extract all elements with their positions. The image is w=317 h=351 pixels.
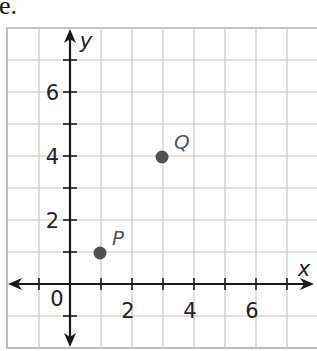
x-tick-label: 6 xyxy=(245,299,258,323)
x-axis-label: x xyxy=(297,257,311,281)
y-axis-label: y xyxy=(79,29,93,53)
data-points: PQ xyxy=(94,130,190,260)
tick-labels: xy0246246 xyxy=(46,29,311,323)
x-tick-label: 4 xyxy=(183,299,196,323)
point-q-label: Q xyxy=(174,130,190,154)
coordinate-plane: xy0246246 PQ xyxy=(0,0,317,351)
point-p-marker xyxy=(94,247,107,260)
y-tick-label: 4 xyxy=(46,145,59,169)
origin-label: 0 xyxy=(50,287,63,311)
x-tick-label: 2 xyxy=(121,299,134,323)
point-q-marker xyxy=(156,151,169,164)
point-p-label: P xyxy=(112,226,125,250)
y-tick-label: 2 xyxy=(46,209,59,233)
y-tick-label: 6 xyxy=(46,81,59,105)
